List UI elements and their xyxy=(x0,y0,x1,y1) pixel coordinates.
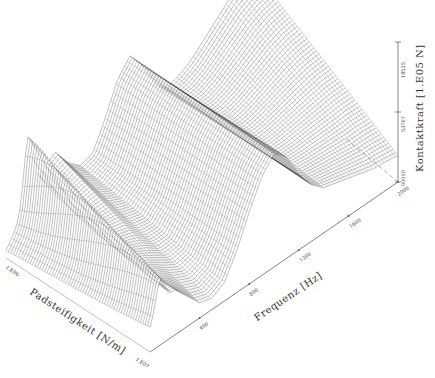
z-tick-1: 53767 xyxy=(400,116,406,132)
wireframe-mesh xyxy=(6,0,398,327)
z-tick-0: 00000 xyxy=(400,170,406,186)
z-tick-2: 18535 xyxy=(400,62,406,78)
frequency-tick-mark xyxy=(298,249,300,251)
frequency-tick-mark xyxy=(248,283,250,285)
z-axis-title: Kontaktkraft [1.E05 N] xyxy=(414,44,425,172)
frequency-tick-mark xyxy=(199,317,201,319)
frequency-tick-mark xyxy=(348,215,350,217)
surface-plot xyxy=(0,0,435,378)
